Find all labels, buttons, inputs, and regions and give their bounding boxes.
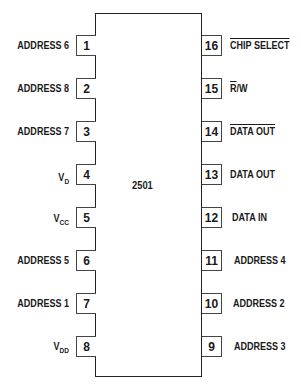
pin-10: 10 bbox=[202, 293, 222, 314]
pin-15: 15 bbox=[202, 78, 222, 99]
pin-2: 2 bbox=[76, 78, 96, 99]
pin-5-label: VCC bbox=[53, 211, 69, 230]
pin-11-label: ADDRESS 4 bbox=[234, 253, 286, 267]
pin-3: 3 bbox=[76, 121, 96, 142]
pin-1: 1 bbox=[76, 35, 96, 56]
pin-8-label: VDD bbox=[53, 339, 69, 358]
pin-11: 11 bbox=[202, 250, 222, 271]
pin-4-label: VD bbox=[58, 170, 69, 189]
pin-14-label: DATA OUT bbox=[230, 124, 275, 138]
pin-12-label: DATA IN bbox=[232, 210, 267, 224]
pin-4: 4 bbox=[76, 164, 96, 185]
pin-13: 13 bbox=[202, 164, 222, 185]
pin-1-label: ADDRESS 6 bbox=[17, 38, 69, 52]
pin-6: 6 bbox=[76, 250, 96, 271]
pin-10-label: ADDRESS 2 bbox=[233, 296, 285, 310]
pin-5: 5 bbox=[76, 207, 96, 228]
pin-2-label: ADDRESS 8 bbox=[17, 81, 69, 95]
part-number: 2501 bbox=[132, 179, 153, 191]
pin-16: 16 bbox=[202, 35, 222, 56]
pin-3-label: ADDRESS 7 bbox=[17, 124, 69, 138]
pin-15-label: R/W bbox=[230, 81, 248, 95]
pin-9-label: ADDRESS 3 bbox=[234, 339, 286, 353]
pin-12: 12 bbox=[202, 207, 222, 228]
pin-7-label: ADDRESS 1 bbox=[17, 296, 69, 310]
pin-7: 7 bbox=[76, 293, 96, 314]
pin-13-label: DATA OUT bbox=[230, 167, 275, 181]
pin-16-label: CHIP SELECT bbox=[230, 38, 289, 52]
ic-package-body bbox=[95, 13, 202, 377]
pin-8: 8 bbox=[76, 336, 96, 357]
pin-9: 9 bbox=[202, 336, 222, 357]
pin-6-label: ADDRESS 5 bbox=[17, 253, 69, 267]
pin-14: 14 bbox=[202, 121, 222, 142]
